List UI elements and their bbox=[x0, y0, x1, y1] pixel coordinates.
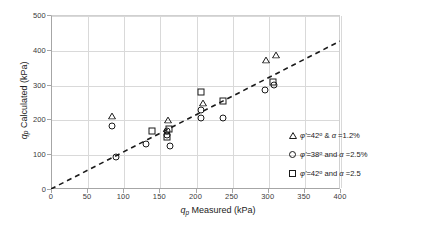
gridline-vertical bbox=[88, 16, 89, 188]
gridline-horizontal bbox=[52, 16, 339, 17]
x-axis-tick-label: 50 bbox=[67, 192, 107, 201]
x-axis-tick-mark bbox=[340, 189, 341, 193]
x-axis-title: qp Measured (kPa) bbox=[0, 205, 436, 216]
gridline-vertical bbox=[269, 16, 270, 188]
gridline-horizontal bbox=[52, 120, 339, 121]
y-axis-tick-mark bbox=[47, 85, 51, 86]
legend-entry: φ'=42o and α =2.5 bbox=[286, 164, 434, 183]
x-axis-tick-mark bbox=[268, 189, 269, 193]
x-axis-tick-label: 350 bbox=[284, 192, 324, 201]
x-axis-tick-label: 400 bbox=[320, 192, 360, 201]
legend-entry-label: φ'=42o and α =2.5 bbox=[299, 169, 361, 178]
x-axis-title-text: Measured (kPa) bbox=[189, 205, 256, 215]
legend-entry-label: φ'=42o & α =1.2% bbox=[299, 131, 360, 140]
x-axis-tick-mark bbox=[87, 189, 88, 193]
x-axis-tick-mark bbox=[51, 189, 52, 193]
gridline-horizontal bbox=[52, 86, 339, 87]
x-axis-tick-label: 100 bbox=[103, 192, 143, 201]
x-axis-tick-label: 250 bbox=[212, 192, 252, 201]
gridline-vertical bbox=[160, 16, 161, 188]
legend-marker-square-icon bbox=[286, 170, 299, 177]
x-axis-tick-mark bbox=[159, 189, 160, 193]
gridline-vertical bbox=[233, 16, 234, 188]
y-axis-tick-mark bbox=[47, 119, 51, 120]
y-axis-tick-label: 500 bbox=[12, 11, 46, 20]
legend-entry: φ'=38o and α =2.5% bbox=[286, 145, 434, 164]
chart-legend: φ'=42o & α =1.2%φ'=38o and α =2.5%φ'=42o… bbox=[286, 126, 434, 183]
scatter-chart-figure: 0100200300400500050100150200250300350400… bbox=[0, 0, 436, 226]
y-axis-tick-mark bbox=[47, 154, 51, 155]
y-axis-tick-mark bbox=[47, 15, 51, 16]
x-axis-tick-label: 200 bbox=[176, 192, 216, 201]
y-axis-title: qp Calculated (kPa) bbox=[19, 30, 30, 170]
legend-entry-label: φ'=38o and α =2.5% bbox=[299, 150, 367, 159]
x-axis-tick-mark bbox=[232, 189, 233, 193]
x-axis-tick-mark bbox=[196, 189, 197, 193]
y-axis-tick-mark bbox=[47, 50, 51, 51]
y-axis-title-text: Calculated (kPa) bbox=[19, 62, 29, 131]
x-axis-tick-mark bbox=[123, 189, 124, 193]
gridline-vertical bbox=[197, 16, 198, 188]
gridline-horizontal bbox=[52, 51, 339, 52]
gridline-vertical bbox=[124, 16, 125, 188]
x-axis-tick-label: 150 bbox=[139, 192, 179, 201]
legend-marker-circle-icon bbox=[286, 151, 299, 158]
x-axis-tick-label: 0 bbox=[31, 192, 71, 201]
legend-entry: φ'=42o & α =1.2% bbox=[286, 126, 434, 145]
x-axis-tick-mark bbox=[304, 189, 305, 193]
legend-marker-triangle-icon bbox=[286, 132, 299, 139]
x-axis-tick-label: 300 bbox=[248, 192, 288, 201]
